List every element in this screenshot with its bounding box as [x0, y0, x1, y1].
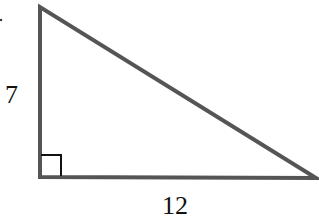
- stray-dot: [0, 19, 2, 21]
- vertical-leg-label: 7: [5, 80, 18, 109]
- triangle-diagram: 7 12: [0, 0, 319, 217]
- horizontal-leg-label: 12: [162, 191, 188, 217]
- right-angle-marker: [41, 155, 61, 176]
- right-triangle: [40, 7, 316, 178]
